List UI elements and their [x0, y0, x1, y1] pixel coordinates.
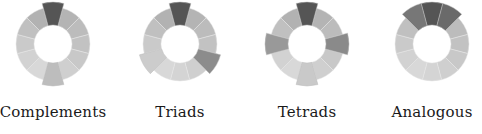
- color-wheel-icon: [360, 0, 482, 100]
- wheel-analogous: Analogous: [360, 0, 480, 134]
- wheel-label-tetrads: Tetrads: [247, 103, 367, 121]
- wheel-complements: Complements: [0, 0, 120, 134]
- color-wheel-icon: [0, 0, 120, 100]
- color-wheel-icon: [240, 0, 360, 100]
- wheel-label-analogous: Analogous: [372, 103, 482, 121]
- wheel-triads: Triads: [120, 0, 240, 134]
- wheel-label-complements: Complements: [0, 103, 113, 121]
- wheel-label-triads: Triads: [120, 103, 240, 121]
- wheel-tetrads: Tetrads: [240, 0, 360, 134]
- color-wheel-icon: [120, 0, 240, 100]
